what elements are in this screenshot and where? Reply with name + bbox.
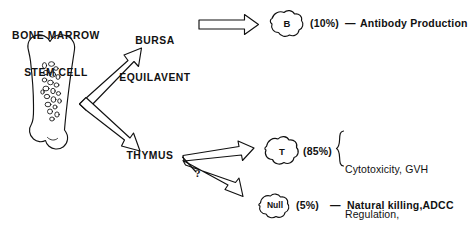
bursa-line-1: BURSA — [116, 34, 195, 46]
bcell-percent: (10%) — [310, 18, 339, 30]
arrow-thymus-to-tcell — [183, 141, 254, 161]
nullcell-label: Null — [263, 201, 287, 211]
bursa-equivalent-label: BURSA EQUILAVENT — [116, 9, 195, 108]
bcell-separator: — — [345, 18, 356, 30]
thymus-label: THYMUS — [121, 149, 179, 161]
uncertain-pathway-marker: ? — [195, 167, 201, 179]
nullcell-separator: — — [330, 200, 341, 212]
tcell-function-line-1: Cytotoxicity, GVH — [345, 162, 428, 177]
source-line-2: STEM CELL — [9, 66, 103, 78]
bursa-line-2: EQUILAVENT — [116, 71, 195, 83]
tcell-label: T — [272, 147, 292, 158]
arrow-thymus-to-nullcell — [183, 157, 244, 197]
bone-marrow-stem-cell-label: BONE MARROW STEM CELL — [9, 4, 103, 103]
arrow-bursa-to-bcell — [199, 15, 259, 35]
tcell-functions: Cytotoxicity, GVH Regulation, Amplificat… — [345, 132, 428, 228]
source-line-1: BONE MARROW — [9, 29, 103, 41]
differentiation-diagram: .stroke { fill:none; stroke:#111111; str… — [0, 0, 471, 228]
tcell-function-brace — [337, 131, 344, 166]
tcell-percent: (85%) — [303, 146, 332, 158]
bcell-label: B — [277, 19, 297, 30]
nullcell-functions: Natural killing,ADCC — [347, 200, 454, 212]
nullcell-percent: (5%) — [296, 200, 319, 212]
bcell-functions: Antibody Production — [360, 18, 468, 30]
